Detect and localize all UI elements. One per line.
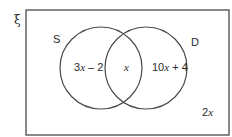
set-s-label: S — [53, 33, 60, 45]
region-s-only: 3x – 2 — [74, 61, 103, 73]
set-d-label: D — [191, 36, 199, 48]
region-intersection: x — [123, 61, 129, 73]
region-d-only: 10x + 4 — [152, 61, 188, 73]
venn-diagram: ξ S D 3x – 2 x 10x + 4 2x — [0, 0, 232, 137]
region-outside: 2x — [202, 106, 213, 118]
universal-set-symbol: ξ — [14, 13, 21, 27]
